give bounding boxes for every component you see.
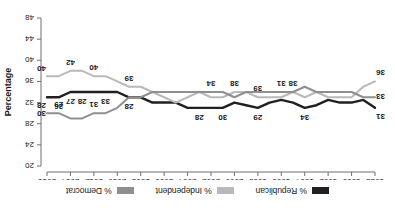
data-labels: 3134293028283328272628363839383940424033…	[37, 58, 385, 122]
data-label: 30	[37, 109, 46, 118]
data-label: 40	[37, 64, 46, 73]
legend-entry-republican: % Republican	[256, 187, 329, 196]
x-tick-label: 2014	[61, 177, 79, 180]
x-tick-label: 2012	[84, 177, 102, 180]
x-tick-label: 1994	[295, 177, 313, 180]
data-label: 42	[65, 58, 74, 67]
x-tick-label: 2000	[225, 177, 243, 180]
legend-swatch-democrat	[117, 188, 134, 195]
x-axis: 1988199019921994199619982000200220042006…	[38, 172, 384, 180]
data-label: 29	[54, 100, 63, 109]
x-tick-label: 2002	[202, 177, 220, 180]
y-axis-title-text: Percentage	[3, 68, 13, 117]
x-tick-label: 1998	[248, 177, 266, 180]
y-tick-label: 40	[25, 55, 34, 64]
legend-swatch-republican	[312, 188, 329, 195]
data-label: 34	[300, 113, 309, 122]
legend-label-independent: % Independent	[156, 187, 212, 196]
data-label: 28	[124, 102, 133, 111]
x-tick-label: 1990	[342, 177, 360, 180]
data-label: 38	[229, 79, 238, 88]
x-tick-label: 1992	[319, 177, 337, 180]
y-tick-label: 32	[25, 98, 34, 107]
data-label: 39	[124, 74, 133, 83]
data-label: 31	[89, 100, 98, 109]
data-label: 39	[253, 84, 262, 93]
data-label: 33	[375, 92, 384, 101]
x-tick-label: 2006	[155, 177, 173, 180]
chart-figure: % Republican % Independent % Democrat 19…	[0, 0, 395, 210]
x-tick-label: 2016	[38, 177, 56, 180]
x-tick-label: 1988	[366, 177, 384, 180]
data-label: 36	[375, 68, 384, 77]
x-tick-label: 2010	[108, 177, 126, 180]
y-axis: 2024283236404448	[25, 13, 41, 170]
legend-swatch-independent	[217, 188, 234, 195]
x-tick-label: 1996	[272, 177, 290, 180]
legend-label-democrat: % Democrat	[66, 187, 112, 196]
chart-legend: % Republican % Independent % Democrat	[0, 181, 395, 201]
data-label: 31	[276, 79, 285, 88]
data-label: 29	[253, 113, 262, 122]
y-tick-label: 28	[25, 119, 34, 128]
y-tick-label: 36	[25, 76, 34, 85]
data-label: 33	[101, 97, 110, 106]
x-tick-label: 2008	[131, 177, 149, 180]
data-label: 40	[89, 63, 98, 72]
data-label: 27	[65, 97, 74, 106]
data-label: 38	[288, 79, 297, 88]
series-lines	[47, 71, 375, 119]
plot-area: 1988199019921994199619982000200220042006…	[0, 0, 395, 180]
y-tick-label: 24	[25, 140, 34, 149]
x-tick-label: 2004	[178, 177, 196, 180]
chart-svg: 1988199019921994199619982000200220042006…	[0, 0, 395, 180]
data-label: 28	[77, 97, 86, 106]
y-tick-label: 48	[25, 13, 34, 22]
legend-entry-independent: % Independent	[156, 187, 234, 196]
y-tick-label: 20	[25, 161, 34, 170]
rotated-chart-container: % Republican % Independent % Democrat 19…	[0, 0, 395, 210]
y-axis-title: Percentage	[3, 68, 13, 117]
legend-entry-democrat: % Democrat	[66, 187, 134, 196]
data-label: 28	[194, 113, 203, 122]
data-label: 34	[206, 79, 215, 88]
data-label: 30	[218, 113, 227, 122]
y-tick-label: 44	[25, 34, 34, 43]
legend-label-republican: % Republican	[256, 187, 307, 196]
data-label: 31	[375, 112, 384, 121]
